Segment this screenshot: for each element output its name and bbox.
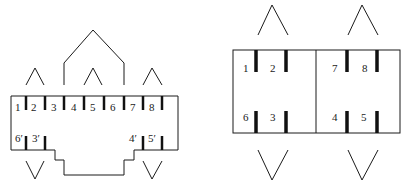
caret-down-right-a — [258, 150, 288, 180]
pin-label: 5′ — [148, 132, 156, 144]
pin-label: 8 — [362, 62, 368, 74]
pin-label: 4′ — [129, 132, 137, 144]
caret-down-right — [143, 161, 162, 179]
pin-label: 5 — [361, 111, 367, 123]
caret-down-right-b — [348, 150, 378, 180]
pin-label: 2 — [31, 101, 37, 113]
large-peak — [64, 30, 124, 85]
pin-label: 1 — [15, 101, 21, 113]
caret-up-right-a — [258, 5, 288, 35]
caret-up-right — [143, 68, 162, 85]
pin-label: 3′ — [32, 132, 40, 144]
pin-label: 1 — [243, 62, 249, 74]
pin-label: 2 — [270, 62, 276, 74]
caret-up-right-b — [348, 5, 378, 35]
pin-label: 7 — [332, 62, 338, 74]
pin-label: 6 — [110, 101, 116, 113]
pin-label: 4 — [71, 101, 77, 113]
pin-label: 3 — [270, 111, 276, 123]
caret-up-middle — [84, 68, 102, 85]
pin-label: 6′ — [15, 132, 23, 144]
caret-down-left — [26, 161, 44, 179]
pin-label: 7 — [130, 101, 136, 113]
caret-up-left — [26, 68, 44, 85]
pin-label: 8 — [149, 101, 155, 113]
pin-label: 5 — [90, 101, 96, 113]
connector-diagram: 1 2 3 4 5 6 7 8 6′ 3′ 4′ 5′ 1 2 6 3 7 8 … — [0, 0, 405, 188]
pin-label: 3 — [51, 101, 57, 113]
pin-label: 6 — [243, 111, 249, 123]
pin-label: 4 — [332, 111, 338, 123]
